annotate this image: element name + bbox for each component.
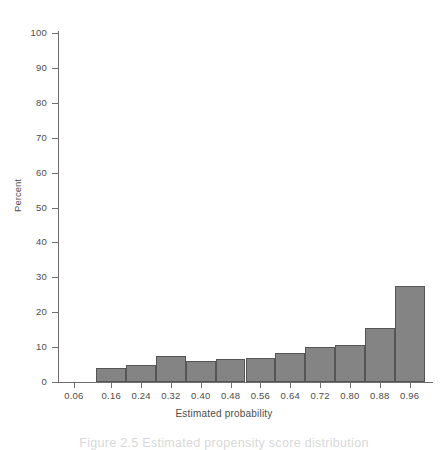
histogram-bar bbox=[246, 358, 276, 382]
y-axis-tick bbox=[52, 277, 58, 278]
plot-area bbox=[59, 33, 432, 382]
x-axis-tick bbox=[201, 383, 202, 388]
x-axis-tick bbox=[231, 383, 232, 388]
histogram-bar bbox=[365, 328, 395, 382]
y-axis-tick bbox=[52, 173, 58, 174]
y-axis-tick-label: 30 bbox=[36, 272, 47, 282]
x-axis-tick-label: 0.24 bbox=[131, 390, 150, 401]
x-axis-tick bbox=[350, 383, 351, 388]
x-axis-title: Estimated probability bbox=[0, 408, 448, 419]
x-axis-tick bbox=[74, 383, 75, 388]
histogram-bar bbox=[395, 286, 425, 382]
y-axis-tick-label: 100 bbox=[31, 28, 47, 38]
x-axis-tick-label: 0.16 bbox=[102, 390, 121, 401]
y-axis-tick bbox=[52, 242, 58, 243]
histogram-bar bbox=[216, 359, 246, 382]
y-axis-tick-label: 10 bbox=[36, 342, 47, 352]
x-axis-tick bbox=[290, 383, 291, 388]
histogram-bar bbox=[96, 368, 126, 382]
x-axis-tick bbox=[410, 383, 411, 388]
x-axis-tick bbox=[320, 383, 321, 388]
histogram-bar bbox=[186, 361, 216, 382]
x-axis-tick-label: 0.32 bbox=[161, 390, 180, 401]
histogram-bar bbox=[275, 353, 305, 382]
y-axis-tick-label: 60 bbox=[36, 168, 47, 178]
y-axis-tick-label: 40 bbox=[36, 237, 47, 247]
x-axis-tick bbox=[260, 383, 261, 388]
y-axis-tick bbox=[52, 68, 58, 69]
x-axis-tick bbox=[380, 383, 381, 388]
y-axis-tick-label: 80 bbox=[36, 98, 47, 108]
figure-caption: Figure 2.5 Estimated propensity score di… bbox=[0, 436, 448, 450]
y-axis-tick-label: 0 bbox=[42, 377, 47, 387]
x-axis-tick-label: 0.72 bbox=[310, 390, 329, 401]
x-axis-tick-label: 0.40 bbox=[191, 390, 210, 401]
y-axis-tick bbox=[52, 103, 58, 104]
histogram-bar bbox=[126, 365, 156, 382]
y-axis-tick bbox=[52, 33, 58, 34]
y-axis-tick-label: 20 bbox=[36, 307, 47, 317]
x-axis-tick-label: 0.64 bbox=[281, 390, 300, 401]
y-axis-tick-label: 90 bbox=[36, 63, 47, 73]
histogram-bar bbox=[305, 347, 335, 382]
x-axis-tick bbox=[111, 383, 112, 388]
x-axis-line bbox=[58, 382, 433, 383]
y-axis-tick bbox=[52, 347, 58, 348]
x-axis-tick bbox=[141, 383, 142, 388]
x-axis-tick-label: 0.56 bbox=[251, 390, 270, 401]
y-axis-title: Percent bbox=[12, 166, 23, 226]
y-axis-tick-label: 50 bbox=[36, 203, 47, 213]
x-axis-tick bbox=[171, 383, 172, 388]
y-axis-tick bbox=[52, 138, 58, 139]
histogram-bar bbox=[335, 345, 365, 382]
y-axis-tick-label: 70 bbox=[36, 133, 47, 143]
x-axis-tick-label: 0.80 bbox=[340, 390, 359, 401]
x-axis-tick-label: 0.06 bbox=[64, 390, 83, 401]
y-axis-tick bbox=[52, 382, 58, 383]
y-axis-tick bbox=[52, 312, 58, 313]
histogram-bar bbox=[156, 356, 186, 382]
x-axis-tick-label: 0.96 bbox=[400, 390, 419, 401]
x-axis-tick-label: 0.48 bbox=[221, 390, 240, 401]
x-axis-tick-label: 0.88 bbox=[370, 390, 389, 401]
y-axis-tick bbox=[52, 208, 58, 209]
